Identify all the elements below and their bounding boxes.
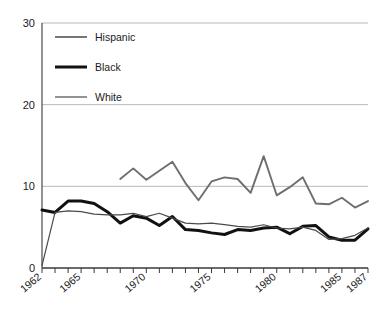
line-chart: 01020301962196519701975198019851987Hispa… — [0, 0, 386, 312]
series-line-hispanic — [120, 156, 368, 207]
y-axis-tick-label: 30 — [23, 17, 35, 29]
series-line-black — [42, 201, 368, 240]
x-axis-tick-label: 1965 — [57, 270, 83, 294]
x-axis-tick-label: 1980 — [252, 270, 278, 294]
x-axis-tick-label: 1975 — [187, 270, 213, 294]
legend-label-hispanic: Hispanic — [95, 31, 135, 43]
y-axis-tick-label: 20 — [23, 99, 35, 111]
legend-label-black: Black — [95, 61, 121, 73]
x-axis-tick-label: 1985 — [318, 270, 344, 294]
x-axis-tick-label: 1987 — [344, 270, 370, 294]
chart-canvas: 01020301962196519701975198019851987Hispa… — [0, 0, 386, 312]
series-line-white — [42, 211, 368, 266]
x-axis-tick-label: 1970 — [122, 270, 148, 294]
y-axis-tick-label: 10 — [23, 180, 35, 192]
x-axis-tick-label: 1962 — [18, 270, 44, 294]
legend-label-white: White — [95, 91, 122, 103]
